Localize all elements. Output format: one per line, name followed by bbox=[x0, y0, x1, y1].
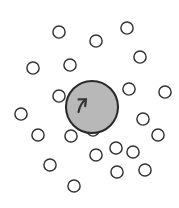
particle-circle bbox=[152, 129, 164, 141]
particle-circle bbox=[32, 129, 44, 141]
particle-circle bbox=[123, 83, 135, 95]
particle-circle bbox=[127, 146, 139, 158]
particle-circle bbox=[90, 149, 102, 161]
particle-circle bbox=[53, 26, 65, 38]
particle-circle bbox=[27, 62, 39, 74]
particle-circle bbox=[53, 90, 65, 102]
particle-circle bbox=[110, 142, 122, 154]
particle-circle bbox=[134, 51, 146, 63]
particle-circle bbox=[111, 166, 123, 178]
particle-circle bbox=[159, 86, 171, 98]
particle-circle bbox=[121, 22, 133, 34]
particle-circle bbox=[65, 130, 77, 142]
particle-circle bbox=[64, 59, 76, 71]
particle-circle bbox=[68, 180, 80, 192]
particle-circle bbox=[139, 164, 151, 176]
particle-diagram-svg bbox=[0, 0, 179, 208]
particle-circle bbox=[44, 159, 56, 171]
particle-circle bbox=[15, 108, 27, 120]
particle-circle bbox=[137, 113, 149, 125]
figure-container bbox=[0, 0, 179, 208]
central-particle-layer bbox=[66, 81, 118, 133]
central-particle-circle bbox=[66, 81, 118, 133]
particle-circle bbox=[90, 35, 102, 47]
